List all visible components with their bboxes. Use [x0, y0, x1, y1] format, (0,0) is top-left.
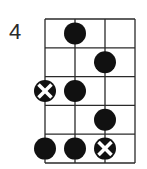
fretboard-grid [0, 0, 147, 169]
note-dot [64, 22, 86, 44]
note-dot [94, 109, 116, 131]
note-dot [64, 138, 86, 160]
root-note-marker [94, 138, 116, 160]
root-note-marker [34, 80, 56, 102]
note-dot [94, 51, 116, 73]
note-dot [34, 138, 56, 160]
note-dot [64, 80, 86, 102]
